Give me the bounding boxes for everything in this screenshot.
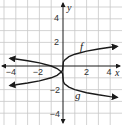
grid bbox=[0, 0, 122, 125]
y-axis-label: y bbox=[66, 2, 72, 13]
y-tick-minus-4: −4 bbox=[50, 109, 60, 119]
x-tick-minus-2: −2 bbox=[33, 67, 43, 77]
y-tick-4: 4 bbox=[54, 13, 59, 23]
curve-f-label: f bbox=[80, 40, 85, 52]
function-graph: −4 −2 2 4 4 2 −2 −4 x y f g bbox=[0, 0, 122, 125]
x-tick-4: 4 bbox=[106, 67, 111, 77]
x-tick-2: 2 bbox=[84, 67, 89, 77]
curve-g-label: g bbox=[75, 89, 81, 101]
y-tick-minus-2: −2 bbox=[50, 85, 60, 95]
x-tick-minus-4: −4 bbox=[6, 67, 16, 77]
y-tick-2: 2 bbox=[54, 37, 59, 47]
x-axis-label: x bbox=[114, 67, 120, 78]
